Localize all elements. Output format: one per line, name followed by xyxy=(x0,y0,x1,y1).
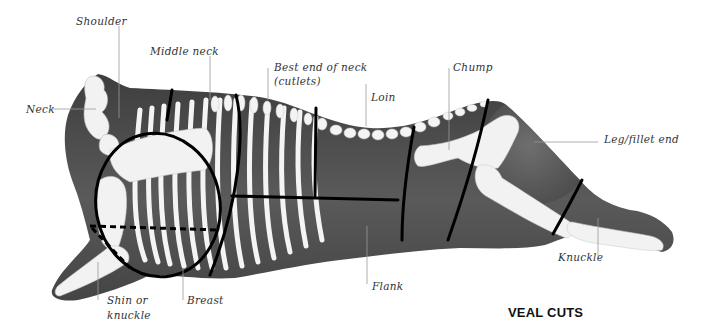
label-chump: Chump xyxy=(453,60,493,74)
label-middle-neck: Middle neck xyxy=(150,44,219,58)
label-flank: Flank xyxy=(372,279,404,293)
label-shin-knuckle: knuckle xyxy=(107,308,151,322)
carcass-illustration xyxy=(0,0,702,333)
label-shoulder: Shoulder xyxy=(76,14,127,28)
label-knuckle: Knuckle xyxy=(558,250,603,264)
label-loin: Loin xyxy=(371,90,396,104)
label-leg-fillet-end: Leg/fillet end xyxy=(604,132,679,146)
label-best-end-of-neck: Best end of neck xyxy=(274,60,367,74)
veal-cuts-diagram: Shoulder Middle neck Best end of neck (c… xyxy=(0,0,702,333)
label-shin-or: Shin or xyxy=(107,293,148,307)
best-end-cut xyxy=(315,108,316,196)
label-neck: Neck xyxy=(26,102,55,116)
label-best-end-cutlets: (cutlets) xyxy=(274,74,321,88)
label-breast: Breast xyxy=(187,293,224,307)
diagram-title: VEAL CUTS xyxy=(508,305,583,320)
carcass-body xyxy=(52,74,674,301)
